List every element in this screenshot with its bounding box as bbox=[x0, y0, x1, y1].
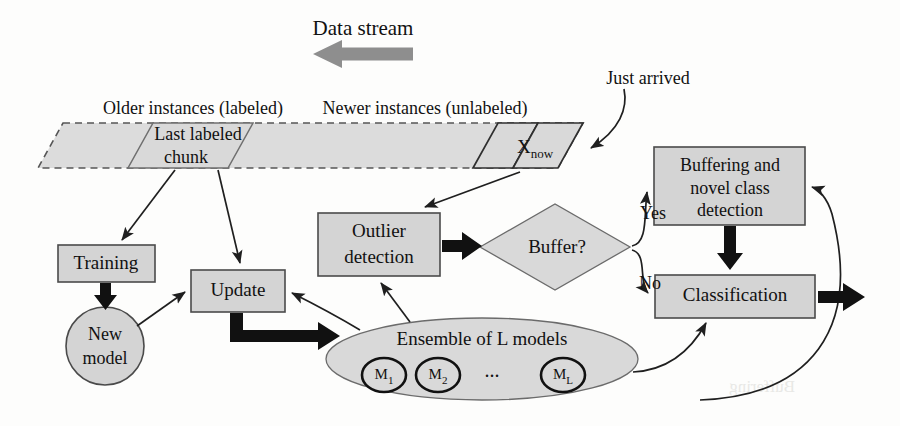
flow-diagram-canvas: Buffering Data stream Older instances (l… bbox=[0, 0, 900, 426]
branch-label-yes: Yes bbox=[640, 203, 666, 223]
outlier-detection-label-2: detection bbox=[344, 246, 414, 267]
new-model-label-1: New bbox=[88, 324, 122, 344]
arrow-update-to-ensemble bbox=[230, 313, 340, 350]
ensemble-model-1: M1 bbox=[362, 358, 406, 392]
ensemble-model-L: ML bbox=[541, 358, 585, 392]
just-arrived-label: Just arrived bbox=[606, 68, 689, 88]
buffer-decision-label: Buffer? bbox=[528, 236, 586, 257]
arrow-ensemble-to-classification bbox=[633, 323, 706, 372]
ensemble-model-1-base: M bbox=[375, 366, 388, 382]
arrow-training-to-newmodel bbox=[94, 283, 117, 310]
outlier-detection-node: Outlier detection bbox=[318, 213, 440, 276]
newer-instances-label: Newer instances (unlabeled) bbox=[323, 98, 528, 119]
buffering-novel-class-node: Buffering and novel class detection bbox=[654, 147, 805, 225]
arrow-newmodel-to-update bbox=[137, 292, 185, 326]
buffering-label-2: novel class bbox=[690, 178, 769, 198]
buffering-label-1: Buffering and bbox=[680, 155, 780, 175]
current-instance-sub: now bbox=[531, 146, 554, 161]
new-model-node: New model bbox=[66, 307, 144, 385]
ensemble-node: Ensemble of L models M1 M2 ... ML bbox=[326, 318, 638, 400]
stream-band-group: Older instances (labeled) Newer instance… bbox=[38, 68, 690, 168]
last-labeled-chunk-label-1: Last labeled bbox=[154, 124, 241, 144]
classification-node: Classification bbox=[655, 275, 815, 318]
data-stream-label: Data stream bbox=[313, 16, 414, 40]
last-labeled-chunk-label-2: chunk bbox=[164, 147, 208, 167]
arrow-xnow-to-outlier bbox=[425, 172, 520, 207]
branch-label-no: No bbox=[639, 273, 661, 293]
diagram-svg: Buffering Data stream Older instances (l… bbox=[0, 0, 900, 426]
arrow-ensemble-to-update bbox=[292, 293, 360, 330]
ensemble-ellipsis: ... bbox=[485, 359, 500, 381]
ensemble-model-2-base: M bbox=[429, 366, 442, 382]
arrow-classification-output bbox=[818, 283, 865, 311]
arrow-ensemble-to-outlier bbox=[381, 283, 410, 322]
arrow-buffering-to-classification bbox=[717, 226, 743, 270]
ensemble-model-2-sub: 2 bbox=[442, 374, 448, 386]
older-instances-label: Older instances (labeled) bbox=[103, 98, 283, 119]
training-label: Training bbox=[74, 252, 139, 273]
outlier-detection-label-1: Outlier bbox=[352, 220, 406, 241]
classification-label: Classification bbox=[683, 284, 788, 305]
update-node: Update bbox=[191, 270, 285, 312]
buffering-label-3: detection bbox=[697, 200, 763, 220]
arrow-outlier-to-buffer bbox=[442, 232, 482, 260]
just-arrived-arrow bbox=[591, 89, 625, 148]
data-stream-arrow bbox=[313, 40, 413, 68]
update-label: Update bbox=[211, 279, 266, 300]
training-node: Training bbox=[58, 245, 155, 282]
ensemble-model-1-sub: 1 bbox=[388, 374, 394, 386]
new-model-label-2: model bbox=[83, 348, 128, 368]
ensemble-model-2: M2 bbox=[416, 358, 460, 392]
current-instance-base: X bbox=[517, 136, 531, 157]
buffer-decision-node: Buffer? bbox=[480, 204, 630, 290]
arrow-chunk-to-update bbox=[218, 170, 240, 263]
ensemble-label: Ensemble of L models bbox=[397, 328, 568, 349]
ensemble-model-L-sub: L bbox=[566, 374, 573, 386]
arrow-chunk-to-training bbox=[122, 170, 175, 240]
ensemble-model-L-base: M bbox=[553, 366, 566, 382]
data-stream-group: Data stream bbox=[313, 16, 414, 68]
